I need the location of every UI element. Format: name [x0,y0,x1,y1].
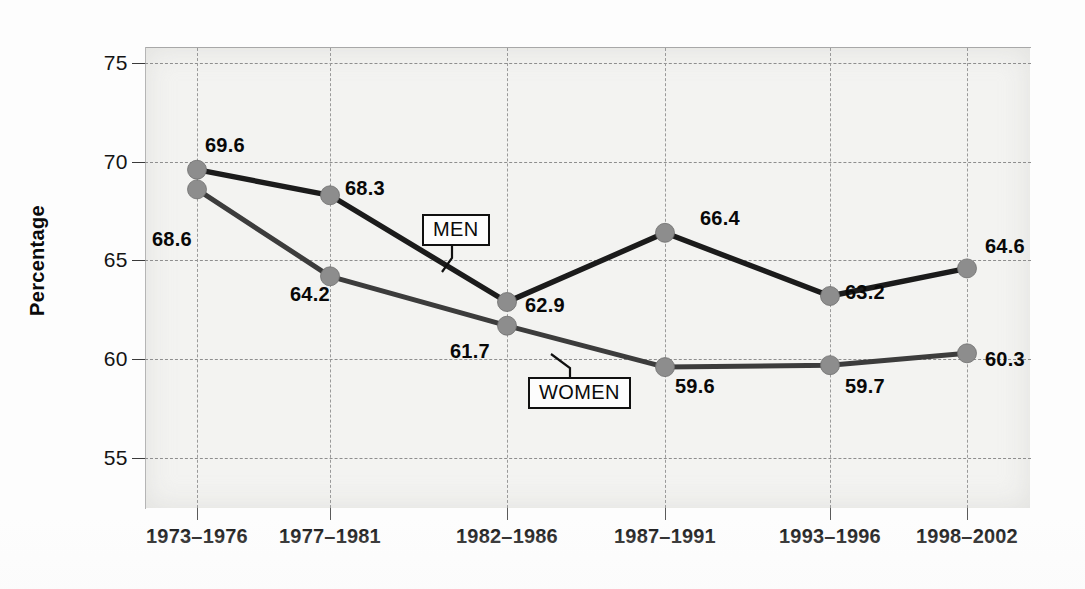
value-label-women-1993-1996: 59.7 [845,375,885,398]
ytick-mark-70 [132,162,145,163]
gridline-y-65 [145,260,1031,261]
xtick-mark-6 [967,508,968,520]
xtick-label-1982-1986: 1982–1986 [422,525,592,548]
legend-callout-men[interactable]: MEN [422,214,490,246]
legend-callout-women[interactable]: WOMEN [528,377,631,409]
value-label-men-1973-1976: 69.6 [205,134,245,157]
xtick-mark-5 [830,508,831,520]
xtick-label-1987-1991: 1987–1991 [580,525,750,548]
value-label-men-1977-1981: 68.3 [345,177,385,200]
value-label-women-1987-1991: 59.6 [675,375,715,398]
gridline-x-1973-1976 [197,48,198,508]
value-label-men-1998-2002: 64.6 [985,235,1025,258]
gridline-x-1982-1986 [507,48,508,508]
gridline-y-70 [145,162,1031,163]
value-label-women-1982-1986: 61.7 [450,340,490,363]
value-label-women-1973-1976: 68.6 [152,228,192,251]
gridline-x-1993-1996 [830,48,831,508]
ytick-label-55: 55 [86,446,128,470]
gridline-x-1998-2002 [967,48,968,508]
value-label-men-1982-1986: 62.9 [525,294,565,317]
xtick-label-1977-1981: 1977–1981 [245,525,415,548]
xtick-mark-1 [197,508,198,520]
xtick-label-1998-2002: 1998–2002 [882,525,1052,548]
plot-frame-left-border [145,47,146,509]
gridline-y-75 [145,63,1031,64]
y-axis-title: Percentage [26,171,49,351]
value-label-men-1987-1991: 66.4 [700,207,740,230]
ytick-label-70: 70 [86,150,128,174]
ytick-mark-75 [132,63,145,64]
value-label-women-1977-1981: 64.2 [290,283,330,306]
plot-frame-top-border [145,47,1031,48]
value-label-women-1998-2002: 60.3 [985,348,1025,371]
gridline-x-1987-1991 [665,48,666,508]
xtick-mark-3 [507,508,508,520]
ytick-label-75: 75 [86,51,128,75]
value-label-men-1993-1996: 63.2 [845,281,885,304]
chart-figure: 75 70 65 60 55 Percentage 1973–1976 1977… [0,0,1085,589]
gridline-x-1977-1981 [330,48,331,508]
xtick-mark-2 [330,508,331,520]
plot-area [145,48,1030,508]
gridline-y-60 [145,359,1031,360]
ytick-mark-60 [132,359,145,360]
ytick-label-60: 60 [86,347,128,371]
ytick-label-65: 65 [86,248,128,272]
ytick-mark-55 [132,458,145,459]
xtick-mark-4 [665,508,666,520]
gridline-y-55 [145,458,1031,459]
ytick-mark-65 [132,260,145,261]
